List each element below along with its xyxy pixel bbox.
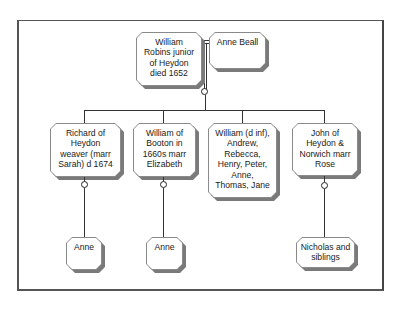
node-child-william-booton[interactable]: William of Booton in 1660s marr Elizabet…	[133, 123, 196, 177]
node-label: William (d inf), Andrew, Rebecca, Henry,…	[215, 128, 269, 190]
sibling-bar	[84, 110, 325, 111]
node-face: William (d inf), Andrew, Rebecca, Henry,…	[209, 124, 276, 197]
node-label: Nicholas and siblings	[301, 242, 351, 263]
branch-line-4	[324, 110, 325, 123]
marriage-drop-line-b	[206, 43, 207, 89]
branch-line-2	[163, 110, 164, 123]
descent-line-2b	[163, 188, 164, 237]
node-grandchild-anne-2[interactable]: Anne	[146, 237, 183, 270]
node-child-siblings-group[interactable]: William (d inf), Andrew, Rebecca, Henry,…	[208, 123, 277, 198]
node-label: William Robins junior of Heydon died 165…	[144, 37, 194, 79]
union-marker-root	[201, 88, 208, 95]
node-child-richard[interactable]: Richard of Heydon weaver (marr Sarah) d …	[50, 123, 121, 177]
node-grandchild-nicholas[interactable]: Nicholas and siblings	[296, 237, 355, 268]
node-label: Richard of Heydon weaver (marr Sarah) d …	[58, 128, 112, 170]
node-face: Richard of Heydon weaver (marr Sarah) d …	[51, 124, 120, 176]
branch-line-1	[84, 110, 85, 123]
union-drop-line	[205, 95, 206, 110]
node-face: William of Booton in 1660s marr Elizabet…	[134, 124, 195, 176]
node-label: Anne	[74, 242, 94, 252]
node-label: John of Heydon & Norwich marr Rose	[299, 128, 350, 170]
union-marker-child-1	[81, 181, 88, 188]
node-spouse-anne-beall[interactable]: Anne Beall	[209, 32, 266, 69]
node-face: William Robins junior of Heydon died 165…	[137, 33, 201, 85]
descent-line-1b	[84, 188, 85, 237]
node-face: Anne Beall	[210, 33, 265, 68]
union-marker-child-2	[160, 181, 167, 188]
union-marker-child-4	[321, 182, 328, 189]
node-face: Nicholas and siblings	[297, 238, 354, 267]
node-child-john[interactable]: John of Heydon & Norwich marr Rose	[292, 123, 358, 176]
node-root-william-robins[interactable]: William Robins junior of Heydon died 165…	[136, 32, 202, 86]
node-face: Anne	[147, 238, 182, 269]
descent-line-4b	[324, 189, 325, 237]
node-label: Anne Beall	[217, 37, 259, 47]
node-face: John of Heydon & Norwich marr Rose	[293, 124, 357, 175]
node-face: Anne	[67, 238, 101, 269]
branch-line-3	[242, 110, 243, 123]
node-label: William of Booton in 1660s marr Elizabet…	[143, 128, 186, 170]
node-grandchild-anne-1[interactable]: Anne	[66, 237, 102, 270]
node-label: Anne	[154, 242, 174, 252]
